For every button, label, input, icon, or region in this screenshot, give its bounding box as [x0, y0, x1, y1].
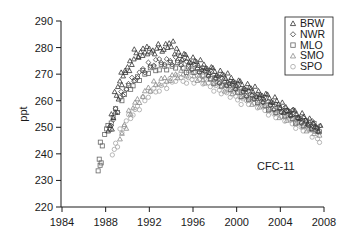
triangle-marker — [280, 100, 285, 104]
y-tick-label: 290 — [35, 15, 53, 27]
triangle-marker — [307, 116, 312, 120]
circle-marker — [110, 153, 114, 157]
triangle-marker — [225, 71, 230, 75]
circle-marker — [212, 89, 216, 93]
triangle-marker — [118, 137, 123, 141]
y-axis-ticks: 220230240250260270280290 — [35, 15, 61, 213]
x-tick-label: 1988 — [93, 216, 117, 228]
square-marker — [96, 169, 100, 173]
legend: BRWNWRMLOSMOSPO — [285, 17, 333, 75]
y-tick-label: 280 — [35, 42, 53, 54]
y-tick-label: 220 — [35, 201, 53, 213]
x-tick-label: 2000 — [224, 216, 248, 228]
circle-marker — [239, 102, 243, 106]
x-tick-label: 1996 — [181, 216, 205, 228]
x-axis-ticks: 1984198819921996200020042008 — [50, 207, 336, 228]
y-tick-label: 250 — [35, 121, 53, 133]
circle-marker — [137, 108, 141, 112]
y-tick-label: 270 — [35, 68, 53, 80]
circle-marker — [165, 86, 169, 90]
circle-marker — [143, 99, 147, 103]
y-tick-label: 230 — [35, 174, 53, 186]
legend-label: SPO — [300, 60, 322, 72]
chart-annotation: CFC-11 — [257, 160, 295, 172]
x-tick-label: 1992 — [137, 216, 161, 228]
y-tick-label: 260 — [35, 95, 53, 107]
circle-marker — [184, 81, 188, 85]
y-tick-label: 240 — [35, 148, 53, 160]
x-tick-label: 2004 — [268, 216, 292, 228]
triangle-marker — [171, 39, 176, 43]
x-tick-label: 1984 — [50, 216, 74, 228]
circle-marker — [115, 145, 119, 149]
y-axis-label: ppt — [17, 106, 29, 121]
circle-marker — [146, 95, 150, 99]
triangle-marker — [198, 57, 203, 61]
x-tick-label: 2008 — [312, 216, 336, 228]
circle-marker — [294, 126, 298, 130]
circle-marker — [317, 140, 321, 144]
circle-marker — [266, 113, 270, 117]
cfc11-scatter-chart: 220230240250260270280290 198419881992199… — [0, 0, 351, 238]
triangle-marker — [253, 84, 258, 88]
